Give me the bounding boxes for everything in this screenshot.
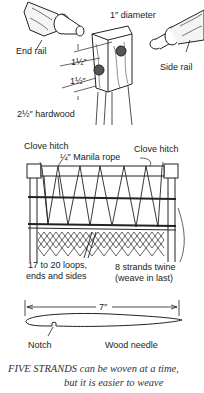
caption-line2: but it is easier to weave: [64, 376, 163, 389]
caption-line1: FIVE STRANDS can be woven at a time,: [8, 362, 179, 375]
illustration: [0, 0, 204, 393]
notch-label: Notch: [28, 340, 52, 350]
manila-rope-label: ¼″ Manila rope: [60, 152, 120, 162]
twine-label-line2: (weave in last): [115, 273, 173, 283]
needle-length-label: 7″: [99, 302, 107, 312]
spacing-bottom-label: 1½″: [70, 76, 86, 86]
clove-hitch-left-label: Clove hitch: [24, 141, 69, 151]
post-drawing: [92, 26, 132, 125]
side-rail-drawing: [150, 10, 204, 52]
loops-label-line1: 17 to 20 loops,: [28, 260, 87, 270]
notch-leader: [48, 327, 53, 336]
hardwood-post-label: 2½″ hardwood: [17, 109, 75, 119]
end-rail-drawing: [24, 2, 84, 50]
end-rail-label: End rail: [16, 46, 47, 56]
diamond-mesh: [38, 232, 164, 258]
loops-label-line2: ends and sides: [26, 271, 87, 281]
wood-needle-drawing: [26, 313, 182, 326]
wood-needle-label: Wood needle: [105, 340, 158, 350]
side-rail-label: Side rail: [160, 62, 193, 72]
caption-lead: FIVE STRANDS: [8, 363, 77, 374]
clove-hitch-right-label: Clove hitch: [134, 144, 179, 154]
diameter-label: 1″ diameter: [110, 10, 156, 20]
spacing-top-label: 1½″: [71, 57, 87, 67]
caption-line1-rest: can be woven at a time,: [77, 363, 179, 374]
twine-label-line1: 8 strands twine: [115, 262, 176, 272]
